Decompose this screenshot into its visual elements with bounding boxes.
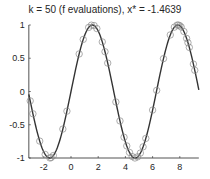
function-curve	[29, 25, 199, 158]
x-tick-label: 6	[150, 162, 155, 172]
x-tick-label: 4	[123, 162, 128, 172]
x-tick-label: -2	[40, 162, 48, 172]
y-tick-label: 1	[20, 20, 25, 30]
x-tick-label: 2	[96, 162, 101, 172]
x-tick-label: 8	[177, 162, 182, 172]
evaluation-markers	[27, 22, 198, 161]
y-tick-label: -1	[17, 153, 25, 163]
axes: -20246810.50-0.5-1	[9, 20, 199, 172]
y-tick-label: -0.5	[9, 120, 25, 130]
plot-area: -20246810.50-0.5-1	[0, 0, 210, 179]
y-tick-label: 0.5	[12, 53, 25, 63]
x-tick-label: 0	[68, 162, 73, 172]
y-tick-label: 0	[20, 87, 25, 97]
